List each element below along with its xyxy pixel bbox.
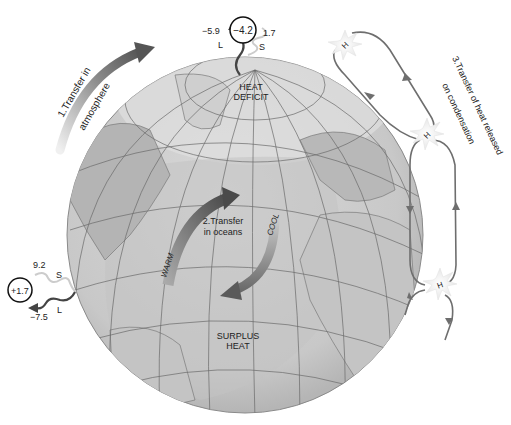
south-longwave-value: −7.5 (30, 312, 48, 322)
south-shortwave-value: 9.2 (33, 260, 46, 270)
north-shortwave-label: S (259, 42, 265, 52)
surplus-heat-line1: SURPLUS (217, 331, 260, 341)
south-net-value: +1.7 (11, 286, 29, 296)
south-longwave-label: L (57, 305, 62, 315)
lower-branch (405, 290, 453, 340)
south-energy-budget: +1.7 9.2 S −7.5 L (8, 260, 76, 322)
heat-deficit-line1: HEAT (239, 82, 263, 92)
north-longwave-value: −5.9 (202, 26, 220, 36)
surplus-heat-line2: HEAT (226, 341, 250, 351)
north-shortwave-value: 1.7 (263, 28, 276, 38)
ocean-transfer-line1: 2.Transfer (203, 216, 244, 226)
high-pressure-marker-bottom: H (423, 268, 457, 300)
south-shortwave-label: S (56, 270, 62, 280)
north-net-value: −4.2 (233, 25, 253, 36)
south-longwave-wave (35, 292, 75, 308)
heat-deficit-line2: DEFICIT (234, 92, 270, 102)
north-longwave-label: L (218, 40, 223, 50)
heat-transfer-diagram: 1.Transfer in atmosphere −4.2 −5.9 L 1.7… (0, 0, 511, 425)
ocean-transfer-line2: in oceans (204, 227, 243, 237)
